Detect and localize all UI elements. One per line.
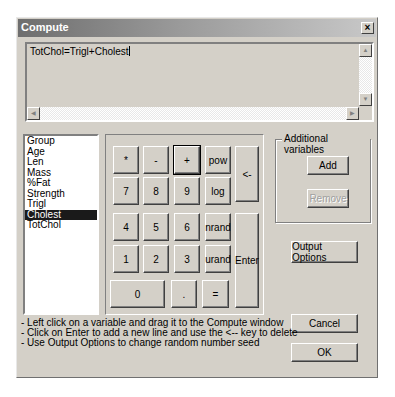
- key-0[interactable]: 0: [110, 280, 165, 308]
- key-urand[interactable]: urand: [205, 245, 231, 273]
- key-4[interactable]: 4: [113, 213, 139, 241]
- title-bar[interactable]: Compute ×: [18, 19, 376, 37]
- scroll-up-button[interactable]: ▲: [359, 44, 372, 57]
- horizontal-scrollbar[interactable]: ◀ ▶: [27, 107, 359, 120]
- key-backspace[interactable]: <-: [235, 146, 259, 202]
- scroll-down-button[interactable]: ▼: [359, 93, 372, 106]
- key-plus[interactable]: +: [174, 146, 200, 174]
- additional-variables-label: Additional variables: [282, 133, 370, 155]
- scroll-right-button[interactable]: ▶: [346, 107, 359, 120]
- key-7[interactable]: 7: [113, 177, 139, 205]
- remove-button: Remove: [307, 189, 349, 208]
- key-8[interactable]: 8: [143, 177, 169, 205]
- add-button[interactable]: Add: [307, 156, 349, 175]
- variable-list[interactable]: Group Age Len Mass %Fat Strength Trigl C…: [23, 134, 99, 315]
- key-1[interactable]: 1: [113, 245, 139, 273]
- arrow-right-icon: ▶: [350, 110, 355, 116]
- cancel-button[interactable]: Cancel: [291, 314, 358, 333]
- compute-dialog: Compute × TotChol=Trigl+Cholest ▲ ▼ ◀ ▶ …: [16, 17, 378, 378]
- close-icon: ×: [365, 22, 371, 33]
- compute-editor[interactable]: TotChol=Trigl+Cholest ▲ ▼ ◀ ▶: [25, 42, 374, 122]
- key-nrand[interactable]: nrand: [205, 213, 231, 241]
- arrow-left-icon: ◀: [31, 110, 36, 116]
- key-minus[interactable]: -: [143, 146, 169, 174]
- output-options-button[interactable]: Output Options: [291, 241, 358, 263]
- close-button[interactable]: ×: [361, 22, 374, 34]
- scroll-left-button[interactable]: ◀: [27, 107, 40, 120]
- key-enter[interactable]: Enter: [235, 213, 259, 308]
- variable-item-len[interactable]: Len: [25, 157, 97, 168]
- key-6[interactable]: 6: [174, 213, 200, 241]
- additional-variables-group: Additional variables Add Remove: [275, 139, 371, 223]
- help-line: - Use Output Options to change random nu…: [21, 338, 298, 348]
- text-caret: [129, 46, 130, 56]
- help-text: - Left click on a variable and drag it t…: [21, 318, 298, 348]
- key-multiply[interactable]: *: [113, 146, 139, 174]
- arrow-up-icon: ▲: [363, 47, 369, 53]
- key-decimal[interactable]: .: [171, 280, 197, 308]
- key-5[interactable]: 5: [143, 213, 169, 241]
- window-title: Compute: [21, 21, 69, 33]
- ok-button[interactable]: OK: [291, 343, 358, 362]
- arrow-down-icon: ▼: [363, 96, 369, 102]
- variable-item-fat[interactable]: %Fat: [25, 178, 97, 189]
- key-9[interactable]: 9: [174, 177, 200, 205]
- key-pow[interactable]: pow: [205, 146, 231, 174]
- keypad: * - + pow <- 7 8 9 log 4 5 6 nrand Enter…: [105, 134, 264, 315]
- key-equals[interactable]: =: [202, 280, 229, 308]
- key-log[interactable]: log: [205, 177, 231, 205]
- key-3[interactable]: 3: [174, 245, 200, 273]
- variable-item-totchol[interactable]: TotChol: [25, 220, 97, 231]
- vertical-scrollbar[interactable]: ▲ ▼: [359, 44, 372, 106]
- variable-item-trigl[interactable]: Trigl: [25, 199, 97, 210]
- variable-item-group[interactable]: Group: [25, 136, 97, 147]
- editor-text: TotChol=Trigl+Cholest: [30, 46, 130, 57]
- key-2[interactable]: 2: [143, 245, 169, 273]
